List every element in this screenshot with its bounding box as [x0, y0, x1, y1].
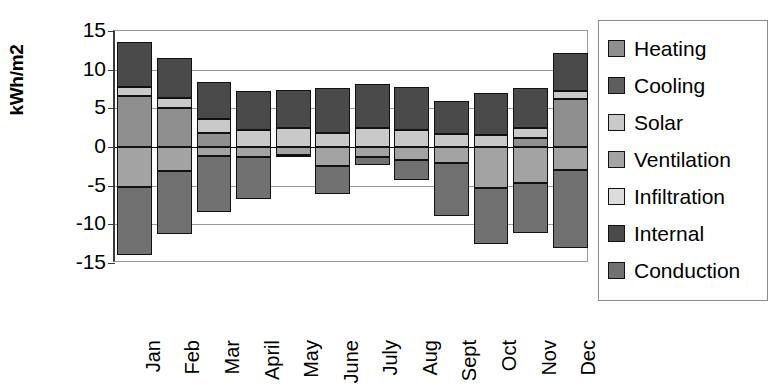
bar-segment[interactable]	[553, 147, 588, 170]
x-axis-tick-label: July	[379, 340, 402, 388]
bar-segment[interactable]	[315, 88, 350, 133]
bar-segment[interactable]	[117, 96, 152, 147]
bar-segment[interactable]	[197, 156, 232, 212]
bar-segment[interactable]	[474, 188, 509, 244]
bar-segment[interactable]	[553, 99, 588, 147]
x-axis-tick-label: Mar	[221, 340, 244, 388]
bar-segment[interactable]	[434, 163, 469, 216]
x-axis-tick: Mar	[221, 340, 244, 388]
x-axis-tick-label: Jan	[142, 340, 165, 388]
bar-segment[interactable]	[513, 183, 548, 233]
x-axis-tick-label: Oct	[498, 340, 521, 388]
bar-group[interactable]	[513, 31, 548, 261]
x-axis-tick-label: June	[340, 340, 363, 388]
bar-segment[interactable]	[355, 147, 390, 157]
bar-segment[interactable]	[157, 171, 192, 234]
bar-segment[interactable]	[315, 147, 350, 166]
x-axis-tick: Feb	[181, 340, 204, 388]
bar-segment[interactable]	[315, 166, 350, 194]
bar-segment[interactable]	[434, 147, 469, 163]
bar-group[interactable]	[315, 31, 350, 261]
bar-segment[interactable]	[394, 87, 429, 130]
bar-segment[interactable]	[315, 133, 350, 147]
bar-segment[interactable]	[276, 90, 311, 129]
bar-group[interactable]	[474, 31, 509, 261]
legend-swatch-icon	[608, 151, 625, 168]
bar-segment[interactable]	[513, 138, 548, 147]
bar-segment[interactable]	[157, 147, 192, 171]
legend-item[interactable]: Conduction	[608, 252, 767, 289]
bar-segment[interactable]	[236, 147, 271, 157]
bar-segment[interactable]	[157, 58, 192, 97]
x-axis-tick-label: Feb	[181, 340, 204, 388]
bar-group[interactable]	[276, 31, 311, 261]
bar-segment[interactable]	[434, 101, 469, 134]
legend-label: Ventilation	[634, 149, 731, 170]
bar-segment[interactable]	[236, 157, 271, 199]
y-axis-tick-label: -10	[54, 212, 106, 233]
bar-segment[interactable]	[236, 130, 271, 147]
bar-group[interactable]	[355, 31, 390, 261]
bar-segment[interactable]	[236, 91, 271, 130]
bar-segment[interactable]	[553, 170, 588, 247]
bar-segment[interactable]	[394, 160, 429, 180]
bar-segment[interactable]	[474, 93, 509, 135]
bar-group[interactable]	[117, 31, 152, 261]
bar-segment[interactable]	[117, 87, 152, 96]
bar-segment[interactable]	[276, 128, 311, 147]
bar-group[interactable]	[434, 31, 469, 261]
bar-segment[interactable]	[434, 134, 469, 147]
y-axis-tick	[108, 186, 115, 187]
bar-segment[interactable]	[394, 147, 429, 160]
bar-segment[interactable]	[197, 82, 232, 119]
bar-segment[interactable]	[394, 130, 429, 147]
bar-segment[interactable]	[553, 91, 588, 100]
bar-segment[interactable]	[355, 157, 390, 165]
bar-group[interactable]	[157, 31, 192, 261]
bar-segment[interactable]	[157, 108, 192, 147]
bar-segment[interactable]	[474, 135, 509, 147]
bar-segment[interactable]	[513, 128, 548, 138]
y-axis-tick-label: 5	[54, 96, 106, 117]
bar-segment[interactable]	[553, 53, 588, 90]
legend-item[interactable]: Internal	[608, 215, 767, 252]
bar-segment[interactable]	[276, 155, 311, 157]
bar-segment[interactable]	[276, 147, 311, 155]
x-axis-tick: Aug	[419, 340, 442, 388]
legend: HeatingCoolingSolarVentilationInfiltrati…	[598, 20, 768, 301]
x-axis-tick-label: Nov	[538, 340, 561, 388]
legend-label: Cooling	[634, 75, 705, 96]
bar-segment[interactable]	[117, 187, 152, 255]
y-axis-tick-label: -5	[54, 174, 106, 195]
bar-segment[interactable]	[117, 147, 152, 187]
x-axis-tick-label: Sept	[458, 340, 481, 388]
legend-swatch-icon	[608, 40, 625, 57]
bar-segment[interactable]	[157, 98, 192, 109]
bar-segment[interactable]	[117, 42, 152, 88]
legend-swatch-icon	[608, 225, 625, 242]
bar-segment[interactable]	[355, 84, 390, 129]
legend-label: Internal	[634, 223, 704, 244]
legend-item[interactable]: Heating	[608, 30, 767, 67]
legend-item[interactable]: Infiltration	[608, 178, 767, 215]
bar-group[interactable]	[197, 31, 232, 261]
bar-segment[interactable]	[513, 147, 548, 183]
bar-group[interactable]	[394, 31, 429, 261]
bar-group[interactable]	[553, 31, 588, 261]
bar-segment[interactable]	[197, 147, 232, 156]
x-axis-tick: Jan	[142, 340, 165, 388]
x-axis-tick-label: Dec	[577, 340, 600, 388]
y-axis-title: kWh/m2	[6, 0, 32, 170]
bar-segment[interactable]	[513, 88, 548, 127]
y-axis-tick	[108, 70, 115, 71]
bar-segment[interactable]	[474, 147, 509, 188]
bar-segment[interactable]	[197, 133, 232, 147]
x-axis-tick: July	[379, 340, 402, 388]
bar-group[interactable]	[236, 31, 271, 261]
bar-segment[interactable]	[355, 128, 390, 147]
legend-swatch-icon	[608, 114, 625, 131]
legend-item[interactable]: Cooling	[608, 67, 767, 104]
legend-item[interactable]: Solar	[608, 104, 767, 141]
legend-item[interactable]: Ventilation	[608, 141, 767, 178]
bar-segment[interactable]	[197, 119, 232, 133]
